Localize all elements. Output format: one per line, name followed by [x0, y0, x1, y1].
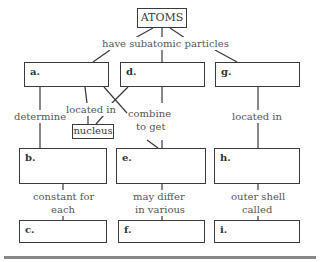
box-i[interactable]: i. — [214, 220, 300, 243]
link-combine: combine — [128, 107, 171, 120]
link-called: called — [242, 203, 272, 216]
box-e-label: e. — [122, 152, 132, 163]
link-each: each — [51, 203, 75, 216]
link-located-in-left: located in — [66, 103, 116, 116]
link-located-in-right: located in — [232, 110, 282, 123]
bottom-divider — [4, 256, 316, 259]
box-h[interactable]: h. — [214, 148, 300, 184]
box-c-label: c. — [25, 224, 35, 235]
link-have-subatomic-particles: have subatomic particles — [102, 37, 222, 50]
link-outer-shell: outer shell — [231, 190, 285, 203]
box-i-label: i. — [220, 224, 227, 235]
box-e[interactable]: e. — [116, 148, 206, 184]
box-a-label: a. — [30, 66, 40, 77]
link-may-differ: may differ — [133, 190, 185, 203]
box-h-label: h. — [220, 152, 231, 163]
box-d[interactable]: d. — [120, 62, 205, 87]
link-constant-for: constant for — [33, 190, 94, 203]
box-d-label: d. — [126, 66, 136, 77]
box-g[interactable]: g. — [215, 62, 300, 87]
link-to-get: to get — [136, 120, 166, 133]
nucleus-box: nucleus — [72, 124, 114, 139]
link-in-various: in various — [135, 203, 185, 216]
box-b[interactable]: b. — [19, 148, 107, 184]
link-determine: determine — [14, 110, 66, 123]
box-f[interactable]: f. — [118, 220, 205, 243]
box-c[interactable]: c. — [19, 220, 107, 243]
box-g-label: g. — [221, 66, 231, 77]
box-a[interactable]: a. — [24, 62, 109, 87]
box-b-label: b. — [25, 152, 35, 163]
box-f-label: f. — [124, 224, 131, 235]
atoms-title-box: ATOMS — [137, 8, 187, 28]
